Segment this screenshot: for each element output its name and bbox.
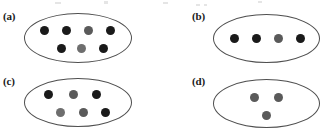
dot-black (40, 26, 49, 35)
set-ellipse (213, 79, 320, 128)
panel-label: (a) (3, 11, 15, 22)
dot-gray (79, 108, 88, 117)
dot-gray (274, 34, 283, 43)
dot-black (62, 26, 71, 35)
dot-gray (69, 90, 78, 99)
dot-black (92, 90, 101, 99)
figure-panel-grid: (a)(b)(c)(d) (0, 0, 325, 136)
scan-artifact-strip (0, 0, 325, 9)
dot-gray (262, 111, 271, 120)
scan-speck (55, 2, 61, 4)
dot-gray (274, 93, 283, 102)
dot-light-gray (56, 108, 65, 117)
scan-speck (258, 1, 262, 3)
dot-black (44, 90, 53, 99)
panel-label: (c) (3, 76, 15, 87)
scan-speck (104, 1, 108, 4)
dot-black (252, 34, 261, 43)
set-ellipse (24, 78, 132, 127)
scan-speck (163, 2, 168, 4)
panel-label: (b) (192, 11, 205, 22)
scan-speck (196, 4, 200, 6)
dot-black (106, 26, 115, 35)
dot-gray (84, 26, 93, 35)
set-ellipse (24, 13, 132, 63)
panel-label: (d) (192, 76, 205, 87)
dot-black (99, 44, 108, 53)
dot-black (296, 34, 305, 43)
dot-gray (250, 93, 259, 102)
dot-black (101, 108, 110, 117)
dot-black (230, 34, 239, 43)
dot-black (57, 44, 66, 53)
scan-speck (204, 4, 207, 6)
dot-light-gray (77, 44, 86, 53)
